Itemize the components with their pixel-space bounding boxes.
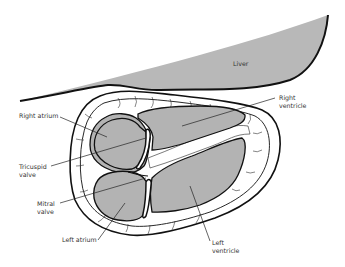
label-mitral-valve-2: valve [37,208,54,215]
label-left-atrium: Left atrium [62,236,97,243]
label-left-ventricle-2: ventricle [212,247,240,254]
label-liver: Liver [233,60,249,67]
label-mitral-valve-1: Mitral [37,200,55,207]
liver-shape [20,15,328,101]
left-atrium-chamber [94,171,148,220]
label-left-ventricle-1: Left [212,239,224,246]
label-right-ventricle-1: Right [279,94,296,102]
label-right-atrium: Right atrium [19,112,58,120]
label-right-ventricle-2: ventricle [279,102,307,109]
heart-diagram: Liver Right ventricle Right atrium Tricu… [0,0,345,267]
label-tricuspid-valve-2: valve [19,171,36,178]
label-tricuspid-valve-1: Tricuspid [18,163,47,171]
